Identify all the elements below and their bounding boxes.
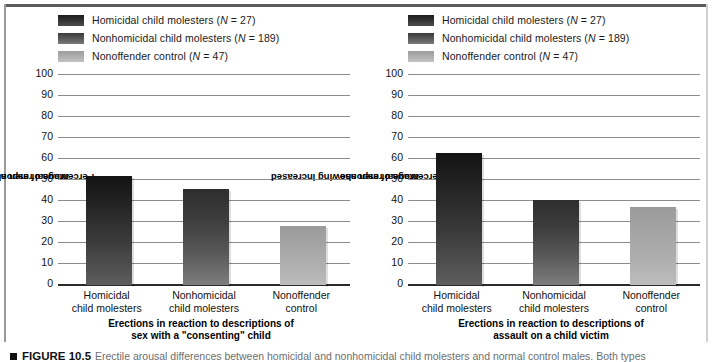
y-tick-label: 20 (9, 235, 53, 247)
y-tick-label: 100 (359, 67, 403, 79)
x-category-labels-right: Homicidal child molesters Nonhomicidal c… (408, 289, 700, 314)
x-category-label-line: child molesters (422, 302, 492, 314)
legend-swatch-icon (408, 51, 434, 62)
bar[interactable] (630, 207, 676, 285)
caption-bullet-icon (10, 353, 17, 360)
chart-panels: Homicidal child molesters (N = 27) Nonho… (6, 8, 706, 340)
y-tick-label: 20 (359, 235, 403, 247)
x-category-label: Nonoffender control (253, 289, 350, 314)
y-tick-label: 60 (359, 151, 403, 163)
y-tick-label: 80 (359, 109, 403, 121)
y-tick-label: 50 (9, 172, 53, 184)
figure-root: Homicidal child molesters (N = 27) Nonho… (0, 0, 712, 362)
x-category-label-line: child molesters (519, 302, 589, 314)
legend-swatch-icon (58, 51, 84, 62)
x-category-label: Nonhomicidal child molesters (505, 289, 602, 314)
y-tick-label: 10 (359, 256, 403, 268)
x-category-labels-left: Homicidal child molesters Nonhomicidal c… (58, 289, 350, 314)
x-category-label-line: child molesters (169, 302, 239, 314)
y-tick-label: 40 (9, 193, 53, 205)
bar[interactable] (280, 226, 326, 285)
x-axis-title-line1: Erections in reaction to descriptions of (458, 318, 644, 329)
x-axis-title-line2: assault on a child victim (493, 330, 609, 341)
y-tick-label: 80 (9, 109, 53, 121)
legend-item-label: Nonoffender control (N = 47) (92, 50, 228, 62)
caption-body-text: Erectile arousal differences between hom… (95, 350, 646, 362)
legend-swatch-icon (408, 33, 434, 44)
legend-item: Nonhomicidal child molesters (N = 189) (58, 30, 354, 46)
legend-item: Nonoffender control (N = 47) (408, 48, 704, 64)
x-category-label-line: Nonoffender (622, 289, 680, 301)
legend-item-label: Nonoffender control (N = 47) (442, 50, 578, 62)
x-category-label: Homicidal child molesters (408, 289, 505, 314)
x-category-label-line: Nonoffender (272, 289, 330, 301)
x-category-label-line: control (635, 302, 667, 314)
y-tick-label: 0 (359, 277, 403, 289)
legend-item: Nonhomicidal child molesters (N = 189) (408, 30, 704, 46)
legend-item-label: Nonhomicidal child molesters (N = 189) (442, 32, 629, 44)
y-tick-label: 50 (359, 172, 403, 184)
bars-right (408, 74, 700, 285)
x-category-label: Homicidal child molesters (58, 289, 155, 314)
legend-left: Homicidal child molesters (N = 27) Nonho… (58, 12, 354, 66)
y-tick-label: 0 (9, 277, 53, 289)
figure-frame-top-rule (4, 4, 708, 7)
legend-item-label: Homicidal child molesters (N = 27) (92, 14, 256, 26)
legend-swatch-icon (58, 15, 84, 26)
x-category-label-line: Homicidal (434, 289, 480, 301)
y-tick-label: 90 (359, 88, 403, 100)
caption-figure-number: FIGURE 10.5 (22, 350, 91, 362)
figure-frame-right-rule (706, 4, 708, 342)
chart-panel-right: Homicidal child molesters (N = 27) Nonho… (356, 8, 706, 340)
bar[interactable] (436, 153, 482, 285)
x-category-label-line: Nonhomicidal (172, 289, 236, 301)
x-category-label-line: child molesters (72, 302, 142, 314)
x-axis-title-left: Erections in reaction to descriptions of… (46, 318, 356, 342)
y-tick-label: 10 (9, 256, 53, 268)
figure-caption: FIGURE 10.5 Erectile arousal differences… (10, 350, 708, 362)
legend-item: Nonoffender control (N = 47) (58, 48, 354, 64)
y-tick-label: 90 (9, 88, 53, 100)
plot-area-right: Percentage of men showing increased arou… (356, 70, 706, 340)
legend-item: Homicidal child molesters (N = 27) (58, 12, 354, 28)
x-category-label-line: Homicidal (84, 289, 130, 301)
y-tick-label: 70 (359, 130, 403, 142)
x-category-label-line: control (285, 302, 317, 314)
bar[interactable] (533, 200, 579, 285)
legend-swatch-icon (58, 33, 84, 44)
x-category-label: Nonhomicidal child molesters (155, 289, 252, 314)
legend-swatch-icon (408, 15, 434, 26)
x-category-label-line: Nonhomicidal (522, 289, 586, 301)
x-axis-title-line1: Erections in reaction to descriptions of (108, 318, 294, 329)
legend-item-label: Nonhomicidal child molesters (N = 189) (92, 32, 279, 44)
bar[interactable] (86, 176, 132, 285)
y-tick-label: 30 (9, 214, 53, 226)
legend-item: Homicidal child molesters (N = 27) (408, 12, 704, 28)
plot-area-left: Percentage of men showing increased arou… (6, 70, 356, 340)
x-category-label: Nonoffender control (603, 289, 700, 314)
bar[interactable] (183, 189, 229, 285)
x-axis-title-line2: sex with a "consenting" child (131, 330, 271, 341)
y-tick-label: 100 (9, 67, 53, 79)
y-tick-label: 70 (9, 130, 53, 142)
y-tick-label: 60 (9, 151, 53, 163)
legend-item-label: Homicidal child molesters (N = 27) (442, 14, 606, 26)
x-axis-title-right: Erections in reaction to descriptions of… (396, 318, 706, 342)
y-tick-label: 30 (359, 214, 403, 226)
legend-right: Homicidal child molesters (N = 27) Nonho… (408, 12, 704, 66)
y-tick-label: 40 (359, 193, 403, 205)
